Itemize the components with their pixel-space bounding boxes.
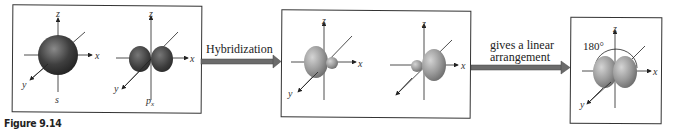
sp-hybrid-left-group: z x y: [287, 15, 363, 100]
px-orbital-label: px: [145, 95, 155, 108]
linear-arrangement-label-line2: arrangement: [490, 51, 550, 64]
z-axis-label: z: [321, 15, 326, 26]
s-orbital-label: s: [55, 94, 59, 105]
px-lobe-left: [129, 46, 151, 72]
s-orbital-sphere: [38, 35, 78, 75]
sp-hybrid-right-group: z x: [390, 18, 466, 100]
s-orbital-group: z x y s: [21, 8, 100, 105]
y-axis-label: y: [113, 83, 119, 94]
angle-label: 180°: [583, 40, 604, 53]
z-axis-label: z: [612, 23, 617, 34]
sp-large-lobe: [304, 46, 328, 78]
x-axis-label: x: [652, 66, 658, 77]
x-axis-label: x: [460, 60, 466, 71]
sp-small-lobe: [326, 57, 338, 69]
y-axis-label: y: [287, 88, 293, 99]
y-axis-label: y: [579, 99, 585, 110]
hybridization-label: Hybridization: [206, 43, 273, 56]
sp-small-lobe: [411, 60, 423, 72]
px-orbital-group: z x y px: [113, 8, 195, 108]
z-axis-label: z: [421, 18, 426, 29]
figure-caption: Figure 9.14: [4, 117, 61, 130]
x-axis-label: x: [94, 50, 100, 61]
sp-lobe-right: [613, 56, 637, 88]
linear-sp-group: z x y: [579, 23, 658, 110]
px-lobe-right: [151, 46, 173, 72]
z-axis-label: z: [148, 8, 153, 19]
y-axis-label: y: [21, 79, 27, 90]
x-axis-label: x: [357, 58, 363, 69]
orbital-diagram: z x y s z x y px z x y: [0, 0, 673, 135]
z-axis-label: z: [55, 8, 60, 19]
x-axis-label: x: [189, 53, 195, 64]
hybridization-arrow: [201, 55, 281, 68]
sp-large-lobe: [422, 49, 446, 81]
